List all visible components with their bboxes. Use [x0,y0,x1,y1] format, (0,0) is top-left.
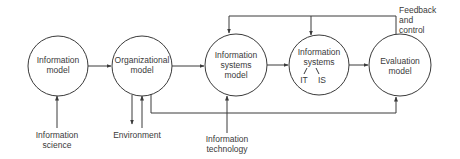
label-information-science: Information science [27,130,87,150]
label-evaluation-model: Evaluation model [370,56,430,76]
label-environment: Environment [107,130,167,140]
is-stroke [316,68,319,74]
label-information-model: Information model [28,55,88,75]
label-information-systems: Information systems [289,47,349,67]
it-stroke [304,68,307,74]
label-information-technology: Information technology [197,134,257,154]
label-it: IT [296,75,312,85]
label-information-systems-model: Information systems model [206,50,266,80]
label-feedback-and-control: Feedback and control [399,5,459,35]
label-organizational-model: Organizational model [110,55,174,75]
feedback-line [229,16,396,34]
arrow-org-to-eval [151,94,396,113]
label-is: IS [314,75,330,85]
